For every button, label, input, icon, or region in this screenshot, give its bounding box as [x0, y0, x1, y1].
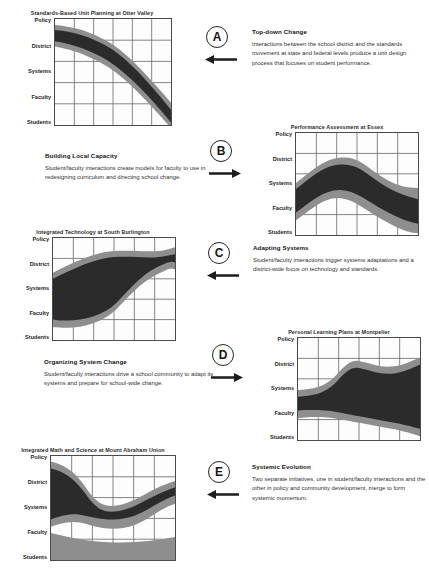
step-body-c: Student/faculty interactions trigger sys… — [253, 256, 423, 275]
plot-svg-c — [53, 238, 175, 340]
chart-title-e: Integrated Math and Science at Mount Abr… — [2, 447, 184, 453]
axis-label-faculty: Faculty — [2, 530, 47, 536]
step-text-a: Top-down Change Interactions between the… — [252, 28, 424, 68]
chart-panel-c: Integrated Technology at South Burlingto… — [4, 229, 182, 341]
axis-label-policy: Policy — [249, 132, 292, 138]
axis-label-systems: Systems — [249, 181, 292, 187]
step-marker-a: A — [206, 26, 228, 48]
axis-label-faculty: Faculty — [251, 411, 294, 417]
chart-panel-e: Integrated Math and Science at Mount Abr… — [2, 447, 184, 561]
arrow-left-icon-a — [204, 54, 238, 65]
arrow-left-icon-c — [206, 270, 240, 281]
plot-area-e — [50, 455, 176, 561]
step-heading-a: Top-down Change — [252, 28, 424, 35]
step-body-d: Student/faculty interactions drive a sch… — [44, 370, 216, 389]
y-axis-c: Policy District Systems Faculty Students — [4, 237, 52, 341]
figure-canvas: Standards-Based Unit Planning at Otter V… — [0, 0, 429, 577]
axis-label-policy: Policy — [251, 337, 294, 343]
step-text-c: Adapting Systems Student/faculty interac… — [253, 244, 423, 275]
step-text-d: Organizing System Change Student/faculty… — [44, 358, 216, 389]
chart-panel-d: Personal Learning Plans at Montpelier Po… — [251, 329, 427, 441]
y-axis-b: Policy District Systems Faculty Students — [249, 132, 295, 236]
axis-label-students: Students — [2, 555, 47, 561]
axis-label-faculty: Faculty — [6, 95, 51, 101]
step-text-e: Systemic Evolution Two separate initiati… — [252, 463, 426, 503]
axis-label-policy: Policy — [6, 18, 51, 24]
axis-label-systems: Systems — [6, 69, 51, 75]
axis-label-students: Students — [249, 230, 292, 236]
axis-label-district: District — [6, 44, 51, 50]
step-body-a: Interactions between the school district… — [252, 40, 424, 69]
axis-label-district: District — [2, 480, 47, 486]
axis-label-district: District — [4, 262, 49, 268]
axis-label-district: District — [251, 362, 294, 368]
axis-label-systems: Systems — [251, 386, 294, 392]
arrow-left-icon-e — [206, 489, 240, 500]
plot-svg-d — [298, 338, 420, 440]
y-axis-a: Policy District Systems Faculty Students — [6, 18, 54, 126]
plot-svg-a — [55, 19, 171, 125]
step-marker-c: C — [208, 242, 230, 264]
step-heading-e: Systemic Evolution — [252, 463, 426, 470]
step-heading-d: Organizing System Change — [44, 358, 216, 365]
step-letter-c: C — [208, 242, 230, 264]
axis-label-systems: Systems — [2, 505, 47, 511]
step-letter-e: E — [208, 461, 230, 483]
axis-label-policy: Policy — [2, 455, 47, 461]
step-marker-d: D — [212, 344, 234, 366]
chart-panel-a: Standards-Based Unit Planning at Otter V… — [6, 10, 178, 126]
step-text-b: Building Local Capacity Student/faculty … — [45, 152, 215, 183]
plot-area-a — [54, 18, 172, 126]
plot-area-c — [52, 237, 176, 341]
plot-svg-e — [51, 456, 175, 560]
step-letter-a: A — [206, 26, 228, 48]
plot-area-d — [297, 337, 421, 441]
axis-label-policy: Policy — [4, 237, 49, 243]
chart-panel-b: Performance Assessment at Essex Policy D… — [249, 124, 425, 236]
step-marker-e: E — [208, 461, 230, 483]
step-heading-b: Building Local Capacity — [45, 152, 215, 159]
step-body-e: Two separate initiatives, one in student… — [252, 475, 426, 504]
axis-label-students: Students — [251, 435, 294, 441]
axis-label-district: District — [249, 157, 292, 163]
step-body-b: Student/faculty interactions create mode… — [45, 164, 215, 183]
plot-svg-b — [296, 133, 418, 235]
axis-label-faculty: Faculty — [4, 311, 49, 317]
axis-label-students: Students — [4, 335, 49, 341]
step-marker-b: B — [210, 140, 232, 162]
axis-label-students: Students — [6, 120, 51, 126]
plot-area-b — [295, 132, 419, 236]
arrow-right-icon-d — [210, 372, 244, 383]
y-axis-e: Policy District Systems Faculty Students — [2, 455, 50, 561]
step-letter-b: B — [210, 140, 232, 162]
axis-label-systems: Systems — [4, 286, 49, 292]
step-heading-c: Adapting Systems — [253, 244, 423, 251]
axis-label-faculty: Faculty — [249, 206, 292, 212]
step-letter-d: D — [212, 344, 234, 366]
chart-title-a: Standards-Based Unit Planning at Otter V… — [6, 10, 178, 16]
y-axis-d: Policy District Systems Faculty Students — [251, 337, 297, 441]
chart-title-d: Personal Learning Plans at Montpelier — [251, 329, 427, 335]
arrow-right-icon-b — [208, 168, 242, 179]
chart-title-c: Integrated Technology at South Burlingto… — [4, 229, 182, 235]
chart-title-b: Performance Assessment at Essex — [249, 124, 425, 130]
